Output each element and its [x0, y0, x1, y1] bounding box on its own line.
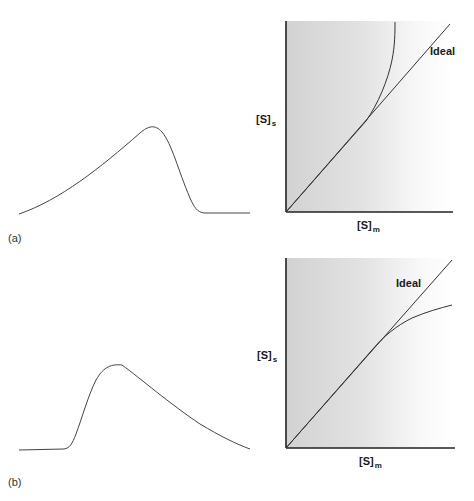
y-label-main: [S] — [256, 113, 271, 125]
isotherm-b-y-label: [S]s — [257, 349, 277, 361]
x-label-main: [S] — [359, 455, 374, 467]
x-label-sub: m — [375, 461, 382, 470]
isotherm-b-x-label: [S]m — [359, 455, 382, 467]
x-label-sub: m — [373, 225, 380, 234]
peak-b-curve — [19, 365, 250, 450]
x-label-main: [S] — [357, 219, 372, 231]
isotherm-b-ideal-label: Ideal — [396, 277, 421, 289]
panel-label-a: (a) — [8, 232, 21, 244]
panel-label-b: (b) — [8, 476, 21, 488]
figure-graphics — [0, 0, 474, 501]
y-label-sub: s — [272, 119, 276, 128]
y-label-main: [S] — [257, 349, 272, 361]
y-label-sub: s — [273, 355, 277, 364]
peak-a-curve — [19, 127, 250, 214]
isotherm-a-y-label: [S]s — [256, 113, 276, 125]
figure: (a) (b) [S]s [S]m Ideal [S]s [S]m Ideal — [0, 0, 474, 501]
isotherm-a-x-label: [S]m — [357, 219, 380, 231]
isotherm-a-ideal-label: Ideal — [430, 45, 455, 57]
